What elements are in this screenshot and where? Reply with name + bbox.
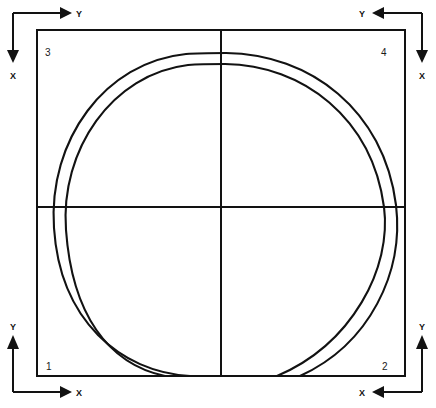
y-axis-arrowhead-right-icon [60, 7, 72, 19]
x-axis-label-bottom-right: X [359, 388, 365, 398]
y-axis-label-bottom-right: Y [419, 322, 425, 332]
y-axis-arrowhead-left-icon [372, 7, 384, 19]
x-axis-arrowhead-down-icon-right [416, 50, 428, 63]
y-axis-label-bottom-left: Y [10, 322, 16, 332]
quadrant-label-4: 4 [381, 47, 387, 58]
x-axis-arrowhead-left-icon [372, 386, 384, 398]
x-axis-label-top-left: X [10, 71, 16, 81]
outer-arc [54, 53, 398, 376]
x-axis-label-top-right: X [419, 71, 425, 81]
quadrant-diagram: Y X Y X Y X [0, 0, 436, 408]
axis-indicator-top-left: Y X [7, 7, 82, 81]
inner-arc [66, 64, 385, 376]
y-axis-label-top-left: Y [76, 9, 82, 19]
x-axis-arrowhead-down-icon [7, 50, 19, 63]
axis-indicator-bottom-left: Y X [7, 322, 82, 398]
y-axis-label-top-right: Y [359, 9, 365, 19]
quadrant-label-3: 3 [45, 47, 51, 58]
diagram-canvas: Y X Y X Y X [0, 0, 436, 408]
quadrant-label-2: 2 [382, 361, 388, 372]
quadrant-label-1: 1 [46, 361, 52, 372]
x-axis-arrowhead-right-icon [60, 386, 72, 398]
axis-indicator-bottom-right: Y X [359, 322, 428, 398]
x-axis-label-bottom-left: X [76, 388, 82, 398]
axis-indicator-top-right: Y X [359, 7, 428, 81]
y-axis-arrowhead-up-icon [7, 335, 19, 349]
y-axis-arrowhead-up-icon-right [416, 335, 428, 349]
